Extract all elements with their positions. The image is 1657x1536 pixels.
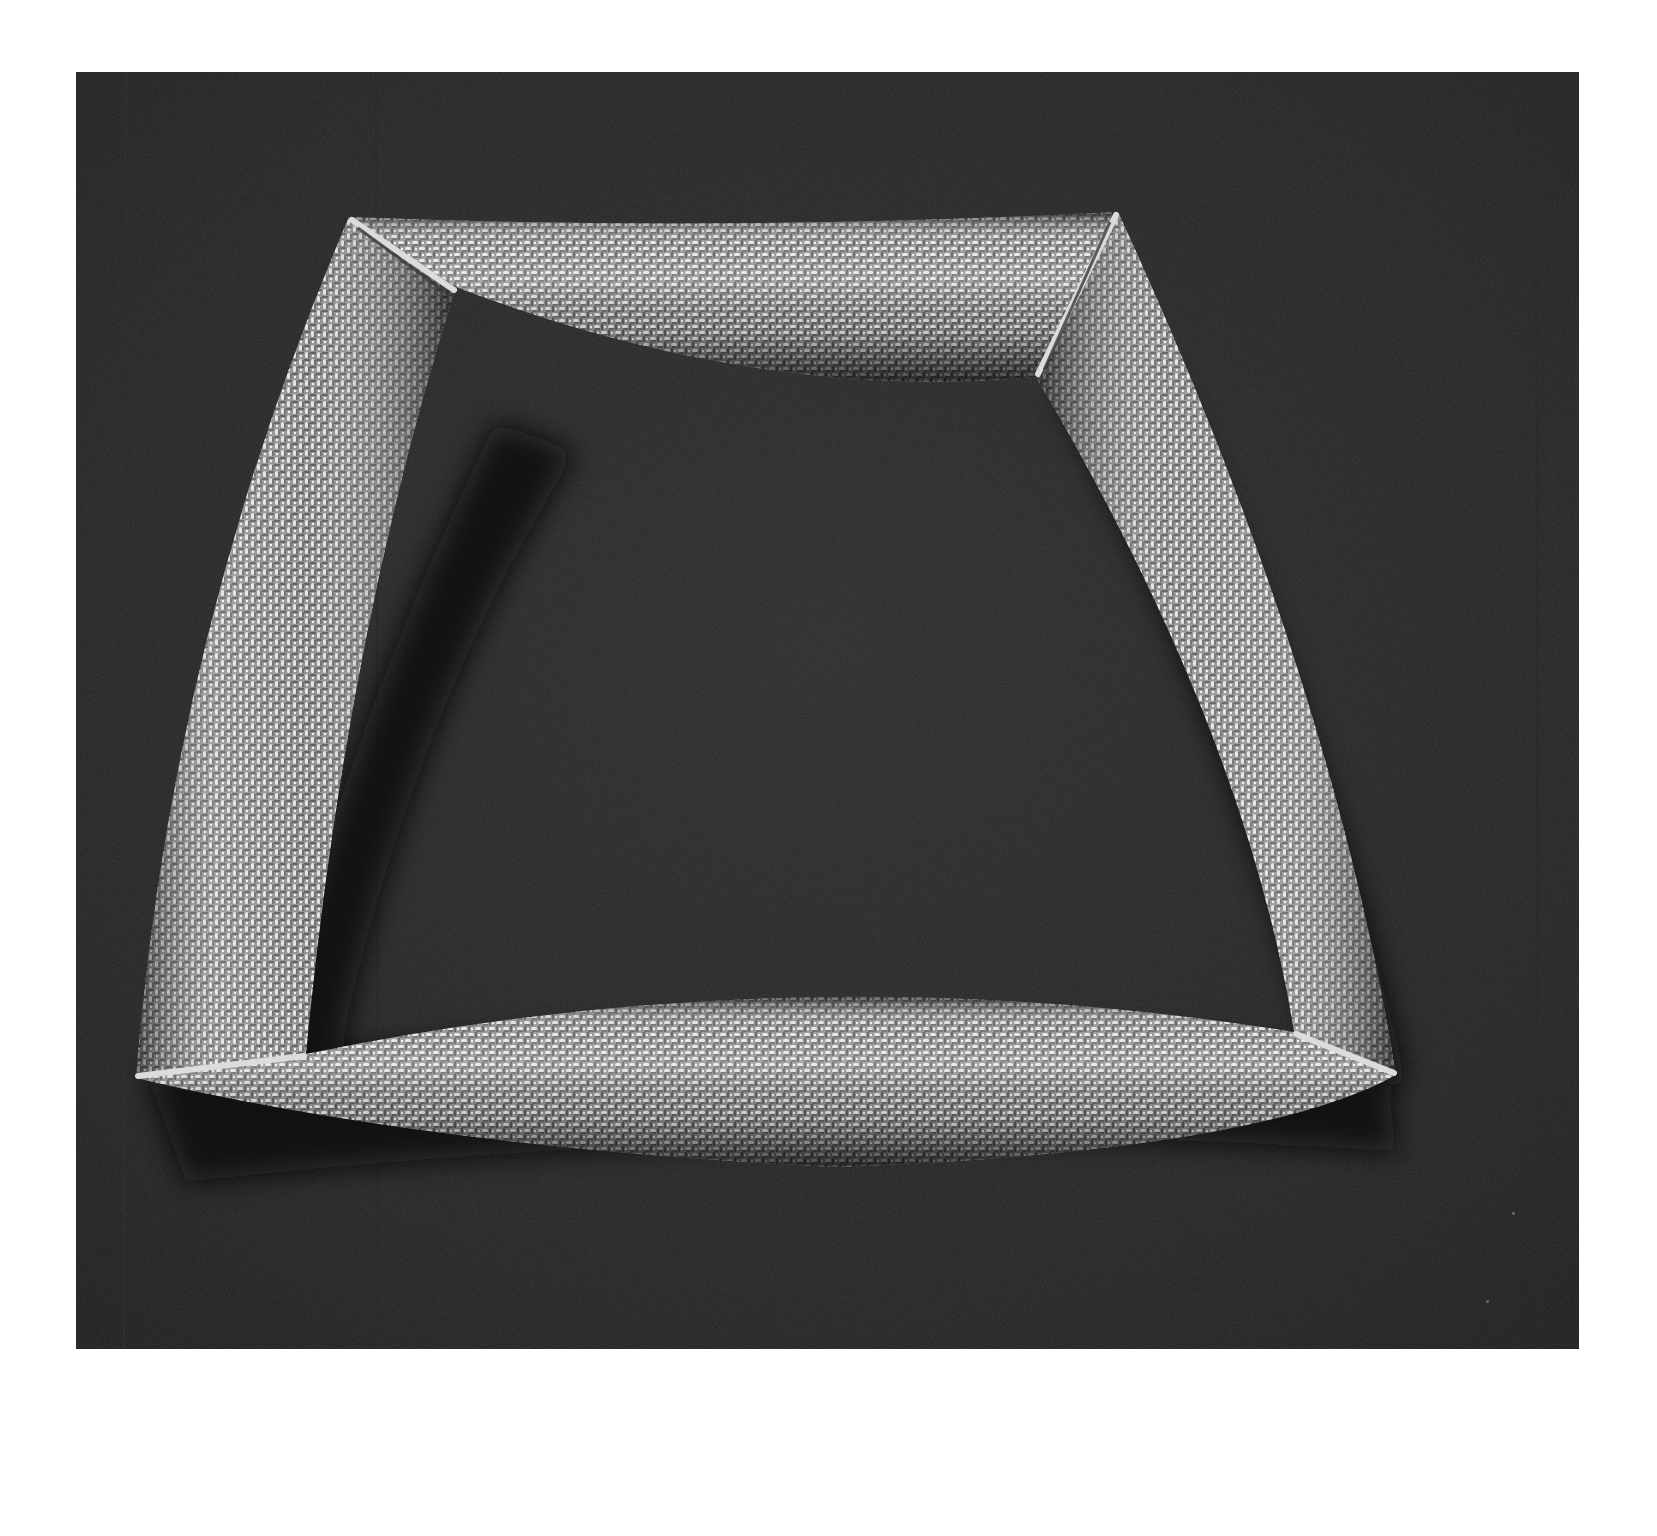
dust-speck (1486, 1300, 1489, 1303)
dust-speck (1512, 1212, 1515, 1215)
mesh-bangle-illustration (76, 72, 1579, 1349)
photo-backdrop (76, 72, 1579, 1349)
page: woven wire mesh bangle (0, 0, 1657, 1536)
